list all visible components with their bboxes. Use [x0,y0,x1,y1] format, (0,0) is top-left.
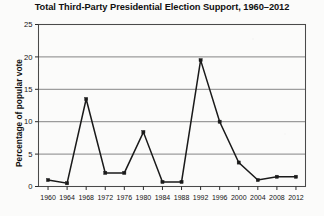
y-tick-label: 25 [24,20,32,29]
y-tick-label: 5 [28,150,32,159]
x-tick-label: 1968 [78,194,94,201]
data-point-marker [123,171,126,174]
data-point-marker [66,182,69,185]
data-point-marker [275,175,278,178]
y-tick-label: 15 [24,85,32,94]
plot-border [39,25,306,187]
plot-frame [39,25,306,187]
y-tick-label: 20 [24,53,32,62]
data-point-marker [46,178,49,181]
data-point-marker [199,59,202,62]
x-tick-label: 1964 [59,194,75,201]
data-point-marker [142,130,145,133]
x-tick-label: 2012 [288,194,304,201]
data-point-marker [85,97,88,100]
x-tick-label: 2008 [269,194,285,201]
x-tick-label: 1980 [136,194,152,201]
y-axis-tick-labels: 0510152025 [24,20,32,191]
x-tick-label: 2004 [250,194,266,201]
data-point-marker [104,171,107,174]
x-tick-label: 1996 [212,194,228,201]
data-point-marker [294,175,297,178]
y-tick-label: 10 [24,117,32,126]
x-tick-label: 1984 [155,194,171,201]
x-tick-label: 1992 [193,194,209,201]
y-tick-label: 0 [28,182,32,191]
x-axis-tick-labels: 1960196419681972197619801984198819921996… [40,194,304,201]
line-chart-plot: 0510152025 19601964196819721976198019841… [0,0,324,216]
data-point-marker [237,161,240,164]
chart-page: Total Third-Party Presidential Election … [0,0,324,216]
gridlines [39,57,306,154]
data-point-marker [180,180,183,183]
x-tick-label: 1976 [117,194,133,201]
data-point-marker [218,120,221,123]
x-tick-label: 1988 [174,194,190,201]
x-tick-label: 2000 [231,194,247,201]
data-point-marker [161,180,164,183]
x-tick-label: 1960 [40,194,56,201]
x-tick-label: 1972 [97,194,113,201]
data-point-marker [256,178,259,181]
